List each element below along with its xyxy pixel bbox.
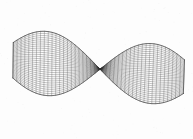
figure-container — [0, 0, 193, 139]
wireframe-mesh-plot — [0, 0, 193, 139]
